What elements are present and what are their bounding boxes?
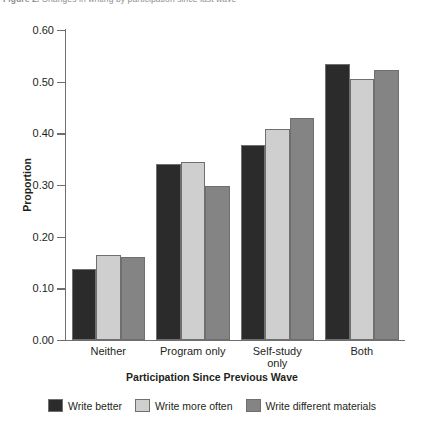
bar [96, 255, 121, 340]
x-axis-category-label: Neither [66, 345, 151, 357]
x-axis-title: Participation Since Previous Wave [0, 371, 424, 383]
y-axis-tick-label: 0.20 [33, 231, 54, 243]
bar [72, 269, 97, 340]
y-axis-tick-mark [57, 340, 65, 341]
y-axis-tick-label: 0.50 [33, 76, 54, 88]
x-axis-category-label: Self-study only [235, 345, 320, 369]
legend-label: Write better [68, 400, 122, 412]
y-axis-tick-mark [57, 237, 65, 238]
y-axis-tick-mark [57, 288, 65, 289]
y-axis-tick-label: 0.10 [33, 282, 54, 294]
y-axis-tick-mark [57, 133, 65, 134]
bar [265, 129, 290, 340]
bar [121, 257, 146, 340]
legend-item: Write more often [135, 399, 232, 412]
bar [205, 186, 230, 340]
y-axis-tick-label: 0.40 [33, 127, 54, 139]
x-axis-line [65, 340, 405, 341]
bar [325, 64, 350, 340]
y-axis-tick-label: 0.00 [33, 334, 54, 346]
legend-swatch [135, 399, 150, 412]
legend-swatch [48, 399, 63, 412]
bar [241, 145, 266, 340]
legend-item: Write better [48, 399, 122, 412]
figure-caption: Figure 2. Changes in writing by particip… [0, 0, 424, 6]
bar [374, 70, 399, 340]
bar [290, 118, 315, 340]
figure-caption-label: Figure 2. [3, 0, 39, 4]
figure-root: Figure 2. Changes in writing by particip… [0, 0, 424, 428]
legend-swatch [246, 399, 261, 412]
bar [156, 164, 181, 340]
y-axis-tick-mark [57, 82, 65, 83]
x-axis-category-label: Both [320, 345, 405, 357]
chart-legend: Write betterWrite more oftenWrite differ… [0, 399, 424, 412]
legend-label: Write more often [155, 400, 232, 412]
plot-area: 0.000.100.200.300.400.500.60 [66, 30, 404, 340]
bar [181, 162, 206, 340]
y-axis-tick-mark [57, 30, 65, 31]
x-axis-category-label: Program only [151, 345, 236, 357]
y-axis-tick-label: 0.60 [33, 24, 54, 36]
y-axis-title: Proportion [21, 158, 33, 212]
y-axis-tick-label: 0.30 [33, 179, 54, 191]
bar [350, 79, 375, 340]
y-axis-title-holder: Proportion [6, 30, 22, 340]
y-axis-tick-mark [57, 185, 65, 186]
legend-item: Write different materials [246, 399, 377, 412]
figure-caption-text: Changes in writing by participation sinc… [39, 0, 236, 4]
legend-label: Write different materials [266, 400, 377, 412]
